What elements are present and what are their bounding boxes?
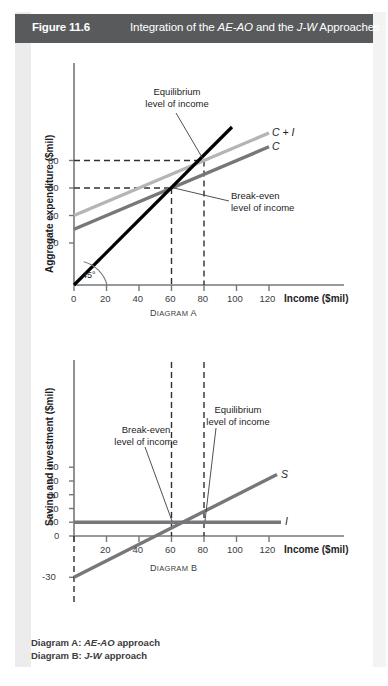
footer-line-a-rest: approach — [115, 637, 160, 648]
diagram-a-caption: DIAGRAM A — [150, 308, 197, 318]
diagram-b-y-ticklabel-10: 10 — [48, 516, 59, 527]
diagram-a-annotation-break-even-line2: level of income — [231, 202, 294, 213]
diagram-b-y-ticklabel-50: 50 — [48, 461, 59, 472]
diagram-b-y-ticklabel-30: 30 — [48, 489, 59, 500]
diagram-a-annotation-leader-break-even — [174, 188, 229, 201]
diagram-b-x-ticklabel-100: 100 — [227, 544, 243, 555]
diagram-a-x-axis-title: Income ($mil) — [284, 293, 348, 304]
figure-header-bar: Figure 11.6 Integration of the AE-AO and… — [15, 14, 373, 43]
diagram-a-series-label-c: C — [272, 140, 280, 152]
diagram-a-annotation-equilibrium-level-of-income: Equilibrium level of income — [129, 86, 225, 109]
diagram-b-caption-text: DIAGRAM B — [150, 563, 197, 573]
diagram-a-x-ticklabel-20: 20 — [100, 293, 111, 304]
diagram-b-y-ticklabel-0: 0 — [54, 530, 59, 541]
diagram-b-x-ticklabel-60: 60 — [165, 544, 176, 555]
diagram-b-annotation-leader-break-even — [145, 447, 172, 521]
figure-title-prefix: Integration of the — [130, 21, 218, 33]
diagram-a-annotation-equilibrium-line1: Equilibrium — [154, 86, 201, 97]
diagram-a-y-ticklabel-20: 20 — [48, 237, 59, 248]
diagram-a-angle-label-45-degrees: 45° — [82, 270, 96, 280]
diagram-a-x-ticklabel-60: 60 — [165, 293, 176, 304]
diagram-b-annotation-equilibrium-level-of-income: Equilibrium level of income — [188, 404, 288, 427]
footer-line-a-emphasis: AE-AO — [84, 637, 115, 648]
figure-title-suffix: Approaches — [317, 21, 380, 33]
diagram-a-y-ticklabel-40: 40 — [48, 210, 59, 221]
diagram-a-x-ticklabel-0: 0 — [71, 293, 76, 304]
diagram-a-annotation-equilibrium-line2: level of income — [145, 98, 208, 109]
diagram-a-y-ticklabel-80: 80 — [48, 155, 59, 166]
footer-line-diagram-b: Diagram B: J-W approach — [31, 649, 361, 662]
diagram-a-caption-text: DIAGRAM A — [150, 308, 197, 318]
footer-line-diagram-a: Diagram A: AE-AO approach — [31, 636, 361, 649]
diagram-b-annotation-break-even-line2: level of income — [114, 436, 177, 447]
diagram-a-series-label-c-plus-i: C + I — [272, 126, 294, 138]
diagram-a-annotation-break-even-line1: Break-even — [231, 190, 280, 201]
diagram-b-x-ticklabel-80: 80 — [198, 544, 209, 555]
figure-page: Figure 11.6 Integration of the AE-AO and… — [0, 0, 388, 686]
diagram-a-chart: Aggregate expenditure ($mil) — [0, 55, 388, 320]
figure-title-emphasis-ae-ao: AE-AO — [218, 21, 253, 33]
figure-title-middle: and the — [253, 21, 297, 33]
figure-number: Figure 11.6 — [32, 21, 90, 33]
diagram-b-x-ticklabel-40: 40 — [133, 544, 144, 555]
diagram-b-y-ticklabel-20: 20 — [48, 503, 59, 514]
diagram-b-x-axis-title: Income ($mil) — [284, 544, 348, 555]
footer-line-b-label: Diagram B: — [31, 650, 84, 661]
diagram-a-x-ticklabel-120: 120 — [260, 293, 276, 304]
diagram-b-y-ticklabel-neg30: -30 — [42, 571, 56, 582]
diagram-b-chart: Saving and investment ($mil) — [0, 340, 388, 630]
figure-title: Integration of the AE-AO and the J-W App… — [130, 21, 380, 33]
diagram-b-annotation-equilibrium-line2: level of income — [206, 416, 269, 427]
diagram-b-y-ticklabel-40: 40 — [48, 475, 59, 486]
diagram-b-annotation-break-even-level-of-income: Break-even level of income — [98, 424, 194, 447]
diagram-b-series-s — [74, 475, 277, 578]
diagram-b-series-label-s: S — [281, 468, 288, 480]
diagram-b-caption: DIAGRAM B — [150, 563, 197, 573]
footer-line-b-rest: approach — [102, 650, 147, 661]
diagram-b-annotation-equilibrium-line1: Equilibrium — [215, 404, 262, 415]
diagram-a-annotation-leader-equilibrium — [176, 113, 203, 159]
footer-line-b-emphasis: J-W — [84, 650, 101, 661]
figure-footer: Diagram A: AE-AO approach Diagram B: J-W… — [31, 636, 361, 662]
diagram-b-x-ticklabel-120: 120 — [260, 544, 276, 555]
diagram-b-x-ticklabel-20: 20 — [100, 544, 111, 555]
diagram-b-series-label-i: I — [285, 515, 288, 527]
footer-line-a-label: Diagram A: — [31, 637, 84, 648]
diagram-a-annotation-break-even-level-of-income: Break-even level of income — [231, 190, 327, 213]
diagram-b-annotation-break-even-line1: Break-even — [122, 424, 171, 435]
diagram-a-y-ticklabel-60: 60 — [48, 182, 59, 193]
diagram-a-x-ticklabel-40: 40 — [133, 293, 144, 304]
diagram-a-x-ticklabel-80: 80 — [198, 293, 209, 304]
figure-title-emphasis-j-w: J-W — [297, 21, 317, 33]
diagram-a-x-ticklabel-100: 100 — [227, 293, 243, 304]
